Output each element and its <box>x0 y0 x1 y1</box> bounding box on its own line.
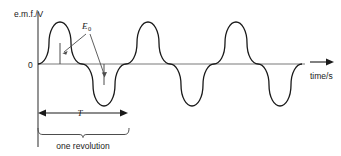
period-arrowhead-left <box>38 110 46 117</box>
amplitude-label: E <box>81 21 88 31</box>
amplitude-leader-arrowhead-trough <box>102 72 107 77</box>
y-axis-label: e.m.f./V <box>14 9 44 19</box>
origin-label: 0 <box>28 60 33 70</box>
x-axis-label: time/s <box>310 71 333 81</box>
x-axis-arrowhead <box>326 59 334 66</box>
one-revolution-label: one revolution <box>56 141 110 151</box>
emf-time-graph-figure: e.m.f./V 0 E 0 T one revolution time/s <box>0 0 341 156</box>
diagram-canvas: e.m.f./V 0 E 0 T one revolution time/s <box>0 0 341 156</box>
amplitude-leader-to-trough <box>90 34 104 74</box>
amplitude-label-subscript: 0 <box>88 25 91 32</box>
period-arrowhead-right <box>120 110 128 117</box>
one-revolution-brace <box>38 128 129 138</box>
amplitude-leader-to-peak <box>64 34 86 52</box>
